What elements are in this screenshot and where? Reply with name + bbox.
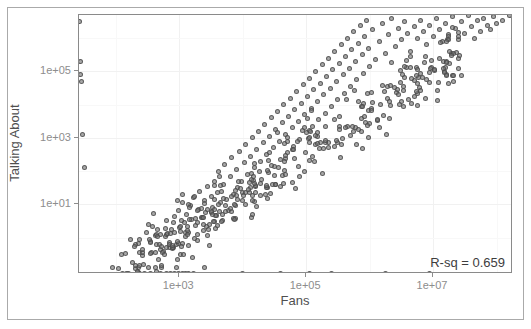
data-point — [373, 57, 378, 62]
data-point — [132, 244, 137, 249]
data-point — [250, 212, 255, 217]
data-point — [199, 206, 204, 211]
data-point — [179, 244, 184, 249]
data-point — [205, 207, 210, 212]
data-point — [192, 236, 197, 241]
data-point — [248, 154, 253, 159]
data-point — [507, 14, 512, 18]
data-point — [475, 18, 480, 23]
data-point — [451, 73, 456, 78]
data-point — [222, 162, 227, 167]
data-point — [303, 150, 308, 155]
x-tick-mark — [432, 273, 433, 277]
data-point — [334, 138, 339, 143]
y-axis-title: Talking About — [7, 104, 22, 181]
data-point — [159, 263, 164, 268]
data-point — [184, 212, 189, 217]
data-point — [462, 31, 467, 36]
data-point — [267, 134, 272, 139]
y-tick-mark — [74, 203, 78, 204]
data-point — [436, 80, 441, 85]
data-point — [366, 135, 371, 140]
data-point — [164, 245, 169, 250]
data-point — [299, 101, 304, 106]
data-point — [323, 111, 328, 116]
data-point — [281, 102, 286, 107]
data-point — [399, 37, 404, 42]
rsq-annotation: R-sq = 0.659 — [430, 255, 505, 270]
data-point — [412, 94, 417, 99]
data-point — [338, 155, 343, 160]
data-point — [172, 214, 177, 219]
data-point — [172, 230, 177, 235]
data-point — [364, 18, 369, 23]
data-point — [282, 141, 287, 146]
data-point — [158, 232, 163, 237]
data-point — [362, 114, 367, 119]
data-point — [320, 62, 325, 67]
data-point — [185, 224, 190, 229]
data-point — [268, 191, 273, 196]
data-point — [412, 24, 417, 29]
x-tick-label: 1e+03 — [163, 279, 194, 291]
data-point — [494, 21, 499, 26]
data-point — [380, 21, 385, 26]
data-point — [216, 202, 221, 207]
data-point — [292, 156, 297, 161]
x-tick-label: 1e+07 — [417, 279, 448, 291]
data-point — [369, 90, 374, 95]
data-point — [318, 81, 323, 86]
data-point — [82, 165, 87, 170]
data-point — [405, 31, 410, 36]
data-point — [387, 116, 392, 121]
data-point — [320, 171, 325, 176]
data-point — [207, 243, 212, 248]
data-point — [401, 84, 406, 89]
data-point — [278, 271, 283, 273]
data-point — [262, 122, 267, 127]
data-point — [344, 97, 349, 102]
y-tick-label: 1e+01 — [40, 197, 71, 209]
data-point — [334, 79, 339, 84]
data-point — [343, 125, 348, 130]
data-point — [116, 266, 121, 271]
data-point — [349, 47, 354, 52]
data-point — [466, 14, 471, 18]
data-point — [356, 41, 361, 46]
data-point — [290, 125, 295, 130]
data-point — [201, 222, 206, 227]
data-point — [381, 113, 386, 118]
data-point — [128, 237, 133, 242]
x-tick-label: 1e+05 — [290, 279, 321, 291]
data-point — [170, 243, 175, 248]
data-point — [229, 155, 234, 160]
data-point — [297, 174, 302, 179]
data-point — [202, 265, 207, 270]
data-point — [266, 158, 271, 163]
data-point — [429, 58, 434, 63]
y-tick-mark — [74, 137, 78, 138]
data-point — [192, 194, 197, 199]
data-point — [312, 159, 317, 164]
data-point — [352, 88, 357, 93]
data-point — [431, 34, 436, 39]
data-point — [233, 188, 238, 193]
data-point — [288, 96, 293, 101]
data-point — [219, 189, 224, 194]
data-point — [418, 88, 423, 93]
data-point — [367, 64, 372, 69]
x-tick-mark — [305, 273, 306, 277]
data-point — [396, 92, 401, 97]
y-tick-label: 1e+03 — [40, 131, 71, 143]
data-point — [347, 66, 352, 71]
data-point — [175, 239, 180, 244]
data-point — [281, 181, 286, 186]
data-point — [296, 164, 301, 169]
data-point — [180, 200, 185, 205]
data-point — [365, 91, 370, 96]
data-point — [148, 271, 153, 273]
data-point — [450, 14, 455, 19]
data-point — [380, 83, 385, 88]
data-point — [456, 66, 461, 71]
data-point — [339, 42, 344, 47]
